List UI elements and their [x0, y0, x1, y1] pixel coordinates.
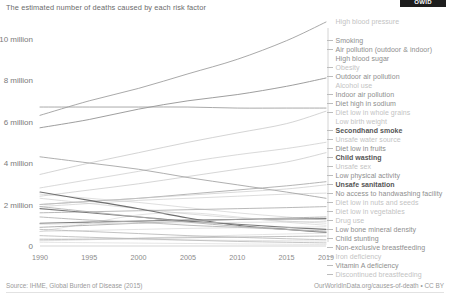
legend-dash-icon — [327, 94, 333, 95]
legend-dash-icon — [327, 202, 333, 203]
legend-item-label: Low physical activity — [336, 171, 400, 180]
legend-item-label: Alcohol use — [336, 81, 373, 90]
legend-dash-icon — [327, 238, 333, 239]
series-line[interactable] — [40, 107, 326, 108]
legend-dash-icon — [327, 229, 333, 230]
owid-logo-badge[interactable]: OWID — [400, 0, 446, 7]
legend-item-label: Unsafe water source — [336, 135, 401, 144]
y-axis-tick-label: 4 million — [4, 159, 33, 168]
y-axis-tick-label: 10 million — [0, 35, 33, 44]
legend-dash-icon — [327, 220, 333, 221]
legend-item-label: Diet high in sodium — [336, 99, 396, 108]
legend-item-label: Low bone mineral density — [336, 225, 417, 234]
legend-item[interactable]: Child wasting — [327, 153, 382, 162]
legend-item-label: Diet low in nuts and seeds — [336, 198, 419, 207]
legend-item-label: Indoor air pollution — [336, 90, 395, 99]
legend-item-label: Outdoor air pollution — [336, 72, 400, 81]
legend-dash-icon — [327, 112, 333, 113]
legend-item-label: Drug use — [336, 216, 365, 225]
legend-item[interactable]: Low bone mineral density — [327, 225, 416, 234]
legend-dash-icon — [327, 184, 333, 185]
y-axis-tick-label: 2 million — [4, 201, 33, 210]
legend-item-label: Unsafe sanitation — [336, 180, 395, 189]
y-axis-tick-label: 8 million — [4, 76, 33, 85]
legend-item-label: Non-exclusive breastfeeding — [336, 243, 426, 252]
source-note: Source: IHME, Global Burden of Disease (… — [6, 282, 142, 289]
legend-item-label: Unsafe sex — [336, 162, 372, 171]
legend-item[interactable]: Unsafe water source — [327, 135, 401, 144]
legend-item[interactable]: High blood sugar — [327, 54, 389, 63]
legend-dash-icon — [327, 76, 333, 77]
x-axis-tick-label: 1995 — [81, 253, 97, 262]
legend-dash-icon — [327, 85, 333, 86]
legend-item[interactable]: Diet low in whole grains — [327, 108, 410, 117]
legend-item[interactable]: Low physical activity — [327, 171, 400, 180]
legend-item-label: Obesity — [336, 63, 360, 72]
legend-item[interactable]: Unsafe sex — [327, 162, 371, 171]
x-axis-tick-label: 2000 — [131, 253, 147, 262]
series-line[interactable] — [40, 194, 326, 220]
legend-item[interactable]: Non-exclusive breastfeeding — [327, 243, 425, 252]
legend-item-label: Child stunting — [336, 234, 379, 243]
legend-item[interactable]: Discontinued breastfeeding — [327, 270, 422, 279]
legend-dash-icon — [327, 247, 333, 248]
series-line[interactable] — [40, 142, 326, 188]
legend-item-label: Low birth weight — [336, 117, 387, 126]
legend-dash-icon — [327, 121, 333, 122]
chart-title: The estimated number of deaths caused by… — [6, 3, 206, 12]
series-line[interactable] — [40, 153, 326, 197]
legend-item[interactable]: Vitamin A deficiency — [327, 261, 399, 270]
legend-item[interactable]: No access to handwashing facility — [327, 189, 442, 198]
legend-item[interactable]: Child stunting — [327, 234, 379, 243]
legend-item-label: Diet low in whole grains — [336, 108, 411, 117]
legend-item-label: Child wasting — [336, 153, 382, 162]
legend-item-label: Iron deficiency — [336, 252, 382, 261]
series-line[interactable] — [40, 229, 326, 239]
legend-dash-icon — [327, 166, 333, 167]
legend-item-label: No access to handwashing facility — [336, 189, 443, 198]
legend-item-label: High blood pressure — [336, 17, 400, 26]
y-axis-tick-label: 6 million — [4, 118, 33, 127]
x-axis-tick-label: 2005 — [180, 253, 196, 262]
legend-dash-icon — [327, 175, 333, 176]
chart-legend[interactable]: High blood pressureSmokingAir pollution … — [327, 14, 450, 266]
legend-dash-icon — [327, 274, 333, 275]
x-axis-tick-label: 2015 — [279, 253, 295, 262]
legend-item[interactable]: Air pollution (outdoor & indoor) — [327, 45, 432, 54]
chart-page: OWID The estimated number of deaths caus… — [0, 0, 450, 304]
legend-item[interactable]: Outdoor air pollution — [327, 72, 400, 81]
legend-item[interactable]: Drug use — [327, 216, 364, 225]
legend-dash-icon — [327, 139, 333, 140]
legend-dash-icon — [327, 157, 333, 158]
legend-item-label: Discontinued breastfeeding — [336, 270, 422, 279]
legend-dash-icon — [327, 148, 333, 149]
legend-item-label: Vitamin A deficiency — [336, 261, 399, 270]
legend-dash-icon — [327, 40, 333, 41]
legend-item[interactable]: Unsafe sanitation — [327, 180, 395, 189]
legend-item[interactable]: Diet high in sodium — [327, 99, 396, 108]
legend-item[interactable]: Diet low in vegetables — [327, 207, 405, 216]
legend-item[interactable]: Iron deficiency — [327, 252, 381, 261]
legend-item-label: Smoking — [336, 36, 364, 45]
legend-dash-icon — [327, 103, 333, 104]
legend-item-label: Diet low in fruits — [336, 144, 386, 153]
x-axis-tick-label: 1990 — [32, 253, 48, 262]
series-line[interactable] — [40, 182, 326, 205]
y-axis-tick-label: 0 — [29, 242, 34, 251]
legend-dash-icon — [327, 67, 333, 68]
legend-dash-icon — [327, 58, 333, 59]
legend-item[interactable]: Indoor air pollution — [327, 90, 394, 99]
series-line[interactable] — [40, 193, 326, 206]
legend-item[interactable]: Obesity — [327, 63, 360, 72]
legend-item[interactable]: Smoking — [327, 36, 363, 45]
legend-dash-icon — [327, 211, 333, 212]
x-axis-tick-label: 2010 — [229, 253, 245, 262]
footer-divider — [6, 292, 444, 293]
legend-item[interactable]: Secondhand smoke — [327, 126, 402, 135]
legend-item[interactable]: Diet low in nuts and seeds — [327, 198, 419, 207]
legend-item[interactable]: Low birth weight — [327, 117, 387, 126]
legend-item-label: Diet low in vegetables — [336, 207, 405, 216]
legend-item[interactable]: High blood pressure — [327, 17, 399, 26]
legend-item[interactable]: Diet low in fruits — [327, 144, 386, 153]
legend-item[interactable]: Alcohol use — [327, 81, 372, 90]
